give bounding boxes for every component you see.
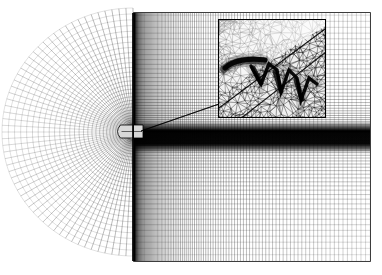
mesh-figure-canvas bbox=[0, 0, 382, 275]
figure-root: Computational mesh around blunt body wit… bbox=[0, 0, 382, 275]
